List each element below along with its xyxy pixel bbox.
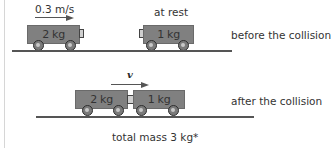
ground-line <box>36 116 254 118</box>
wheel-icon <box>136 105 147 116</box>
after-caption: after the collision <box>231 95 322 107</box>
total-mass-label: total mass 3 kg* <box>112 131 198 143</box>
coupler-icon <box>79 29 84 38</box>
velocity-arrow-shaft <box>35 17 68 18</box>
initial-velocity-label: 0.3 m/s <box>35 3 74 15</box>
ground-line <box>12 50 232 52</box>
at-rest-label: at rest <box>154 6 188 18</box>
arrow-right-icon <box>66 15 74 21</box>
wheel-icon <box>113 105 124 116</box>
final-velocity-label: v <box>127 69 133 80</box>
wheel-icon <box>168 105 179 116</box>
before-caption: before the collision <box>231 29 331 41</box>
wheel-icon <box>82 105 93 116</box>
arrow-right-icon <box>141 82 149 88</box>
left-border <box>4 0 5 148</box>
velocity-arrow-shaft <box>111 84 143 85</box>
